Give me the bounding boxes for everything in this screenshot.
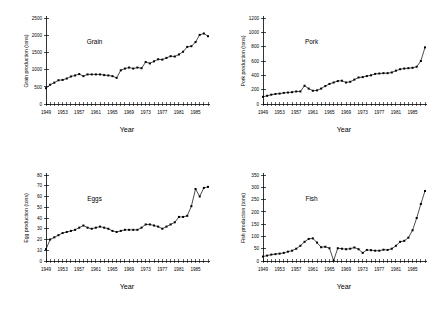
data-point xyxy=(407,237,409,239)
data-point xyxy=(312,237,314,239)
chart-panel-grain: 0500100015002000250019491953195719611965… xyxy=(0,0,217,157)
data-point xyxy=(399,241,401,243)
data-point xyxy=(199,34,201,36)
y-tick-label: 80 xyxy=(37,173,43,178)
data-point xyxy=(45,248,47,250)
data-point xyxy=(341,248,343,250)
data-point xyxy=(345,82,347,84)
data-point xyxy=(279,93,281,95)
data-point xyxy=(349,248,351,250)
data-point xyxy=(116,231,118,233)
data-point xyxy=(145,223,147,225)
data-point xyxy=(111,230,113,232)
x-axis-title: Year xyxy=(337,282,352,291)
x-tick-label: 1977 xyxy=(374,110,385,115)
data-point xyxy=(328,83,330,85)
y-tick-label: 300 xyxy=(251,185,259,190)
y-tick-label: 800 xyxy=(251,44,259,49)
y-axis-title: Fish production (tons) xyxy=(240,193,246,243)
panel-title: Fish xyxy=(306,195,319,202)
x-tick-label: 1985 xyxy=(407,267,418,272)
data-point xyxy=(337,247,339,249)
data-point xyxy=(141,227,143,229)
data-point xyxy=(299,90,301,92)
x-tick-label: 1949 xyxy=(258,110,269,115)
data-point xyxy=(374,250,376,252)
data-point xyxy=(45,87,47,89)
series-line xyxy=(263,191,425,261)
data-point xyxy=(378,250,380,252)
data-point xyxy=(424,46,426,48)
data-point xyxy=(262,256,264,258)
data-point xyxy=(287,251,289,253)
data-point xyxy=(337,80,339,82)
data-point xyxy=(403,240,405,242)
data-point xyxy=(349,81,351,83)
x-axis-title: Year xyxy=(120,282,135,291)
x-tick-label: 1953 xyxy=(274,267,285,272)
x-tick-label: 1973 xyxy=(141,267,152,272)
data-point xyxy=(53,82,55,84)
data-point xyxy=(391,71,393,73)
data-point xyxy=(328,247,330,249)
data-point xyxy=(291,250,293,252)
data-point xyxy=(378,73,380,75)
data-point xyxy=(320,246,322,248)
data-point xyxy=(416,217,418,219)
data-point xyxy=(324,85,326,87)
data-point xyxy=(262,96,264,98)
data-point xyxy=(132,68,134,70)
data-point xyxy=(333,82,335,84)
data-point xyxy=(78,227,80,229)
data-point xyxy=(62,79,64,81)
x-tick-label: 1981 xyxy=(174,267,185,272)
data-point xyxy=(424,190,426,192)
series-line xyxy=(46,33,208,88)
data-point xyxy=(316,89,318,91)
data-point xyxy=(120,69,122,71)
data-point xyxy=(70,230,72,232)
data-point xyxy=(149,62,151,64)
data-point xyxy=(153,60,155,62)
data-point xyxy=(412,229,414,231)
y-tick-label: 0 xyxy=(256,259,259,264)
data-point xyxy=(91,73,93,75)
y-axis-title: Grain production (tons) xyxy=(23,34,29,87)
data-point xyxy=(283,252,285,254)
data-point xyxy=(291,91,293,93)
data-point xyxy=(66,231,68,233)
x-tick-label: 1965 xyxy=(107,267,118,272)
data-point xyxy=(274,93,276,95)
data-point xyxy=(53,236,55,238)
data-point xyxy=(95,227,97,229)
chart-panel-pork: 0200400600800100012001949195319571961196… xyxy=(217,0,434,157)
y-tick-label: 500 xyxy=(34,85,42,90)
y-tick-label: 200 xyxy=(251,87,259,92)
data-point xyxy=(95,73,97,75)
y-tick-label: 20 xyxy=(37,237,43,242)
data-point xyxy=(157,226,159,228)
x-tick-label: 1957 xyxy=(74,267,85,272)
y-tick-label: 600 xyxy=(251,59,259,64)
y-tick-label: 150 xyxy=(251,222,259,227)
x-tick-label: 1977 xyxy=(157,267,168,272)
y-tick-label: 200 xyxy=(251,210,259,215)
data-point xyxy=(174,56,176,58)
data-point xyxy=(170,55,172,57)
data-point xyxy=(207,35,209,37)
x-axis-title: Year xyxy=(337,125,352,134)
y-axis-title: Pork production (tons) xyxy=(240,35,246,86)
data-point xyxy=(199,196,201,198)
data-point xyxy=(295,248,297,250)
y-tick-label: 1000 xyxy=(32,67,43,72)
data-point xyxy=(186,215,188,217)
data-point xyxy=(283,92,285,94)
data-point xyxy=(412,67,414,69)
data-point xyxy=(128,67,130,69)
data-point xyxy=(136,67,138,69)
data-point xyxy=(62,232,64,234)
data-point xyxy=(49,84,51,86)
data-point xyxy=(358,76,360,78)
data-point xyxy=(287,92,289,94)
data-point xyxy=(420,203,422,205)
